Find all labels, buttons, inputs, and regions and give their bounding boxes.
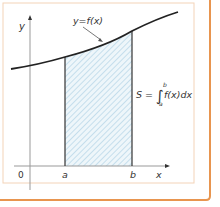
formula-lhs: S = xyxy=(136,89,153,100)
origin-label: 0 xyxy=(18,170,24,180)
curve-label: y=f(x) xyxy=(72,15,103,26)
b-label: b xyxy=(130,169,136,180)
y-axis-label: y xyxy=(18,21,26,32)
formula-upper-limit: b xyxy=(163,81,167,88)
x-axis-label: x xyxy=(155,169,162,180)
integral-area-diagram: y y=f(x) 0 a b x S = ∫ b a f(x)dx xyxy=(0,0,220,207)
formula-lower-limit: a xyxy=(159,100,163,107)
formula-body: f(x)dx xyxy=(164,89,192,100)
a-label: a xyxy=(62,169,68,180)
